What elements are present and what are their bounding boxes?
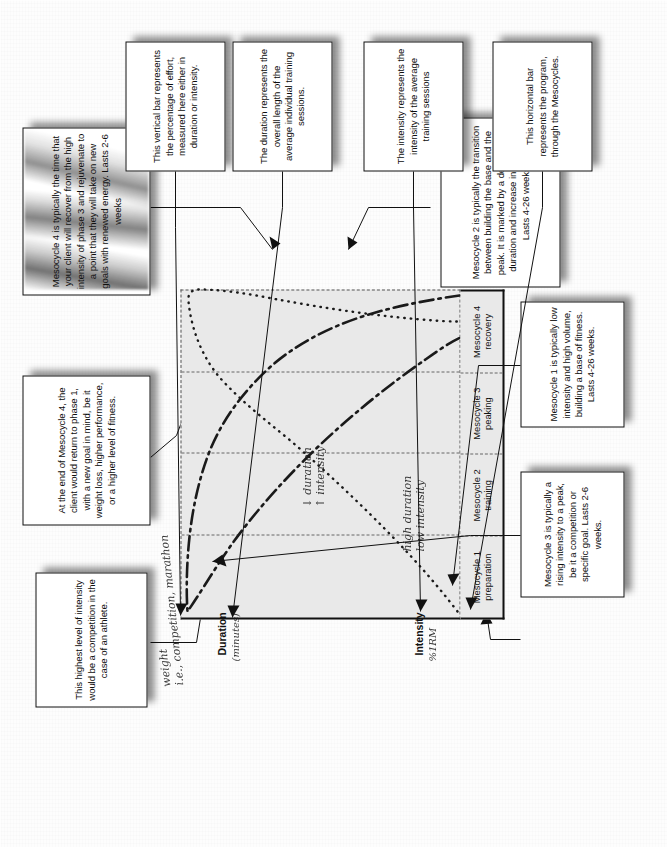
leader-lines-2 — [0, 0, 667, 847]
diagram-canvas: Mesocycle 1 preparation Mesocycle 2 trai… — [0, 0, 667, 847]
